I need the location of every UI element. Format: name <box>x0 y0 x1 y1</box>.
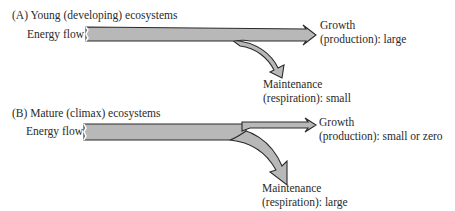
panel-a-growth-label-2: (production): large <box>320 33 406 46</box>
panel-b-maintenance-label-1: Maintenance <box>262 182 321 195</box>
panel-a-maintenance-label-1: Maintenance <box>263 78 322 91</box>
panel-b-growth-arrow <box>242 118 316 132</box>
panel-a-growth-label-1: Growth <box>320 19 355 32</box>
panel-b-input-band <box>84 124 246 140</box>
panel-a-input-label: Energy flow <box>27 28 84 41</box>
panel-b-growth-label-2: (production): small or zero <box>319 130 443 143</box>
panel-a-growth-arrow <box>86 25 316 45</box>
panel-b-title: (B) Mature (climax) ecosystems <box>12 107 161 120</box>
panel-a-maintenance-arrow <box>232 40 284 78</box>
panel-a-maintenance-label-2: (respiration): small <box>263 92 351 105</box>
panel-a-arrows <box>86 25 316 78</box>
panel-a-title: (A) Young (developing) ecosystems <box>12 9 177 22</box>
panel-b-input-label: Energy flow <box>26 125 83 138</box>
panel-b-growth-label-1: Growth <box>319 116 354 129</box>
panel-b-maintenance-label-2: (respiration): large <box>262 196 348 209</box>
panel-b-arrows <box>84 118 316 185</box>
